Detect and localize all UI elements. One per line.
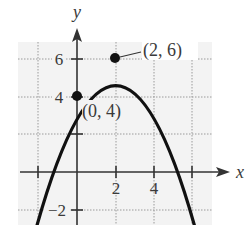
- point-label-y-intercept: (0, 4): [82, 101, 121, 122]
- tick-label-x-2: 2: [112, 179, 121, 198]
- x-axis-label: x: [235, 162, 244, 182]
- tick-label-y-6: 6: [55, 50, 64, 69]
- tick-label-x-4: 4: [150, 179, 159, 198]
- tick-label-y-neg2: −2: [48, 201, 66, 220]
- point-vertex: [110, 53, 120, 63]
- point-y-intercept: [72, 91, 82, 101]
- tick-label-y-4: 4: [55, 88, 64, 107]
- point-label-vertex: (2, 6): [143, 40, 182, 61]
- parabola-graph: 6 4 −2 2 4 y x (2, 6) (0, 4): [0, 0, 248, 225]
- y-axis-label: y: [71, 2, 81, 22]
